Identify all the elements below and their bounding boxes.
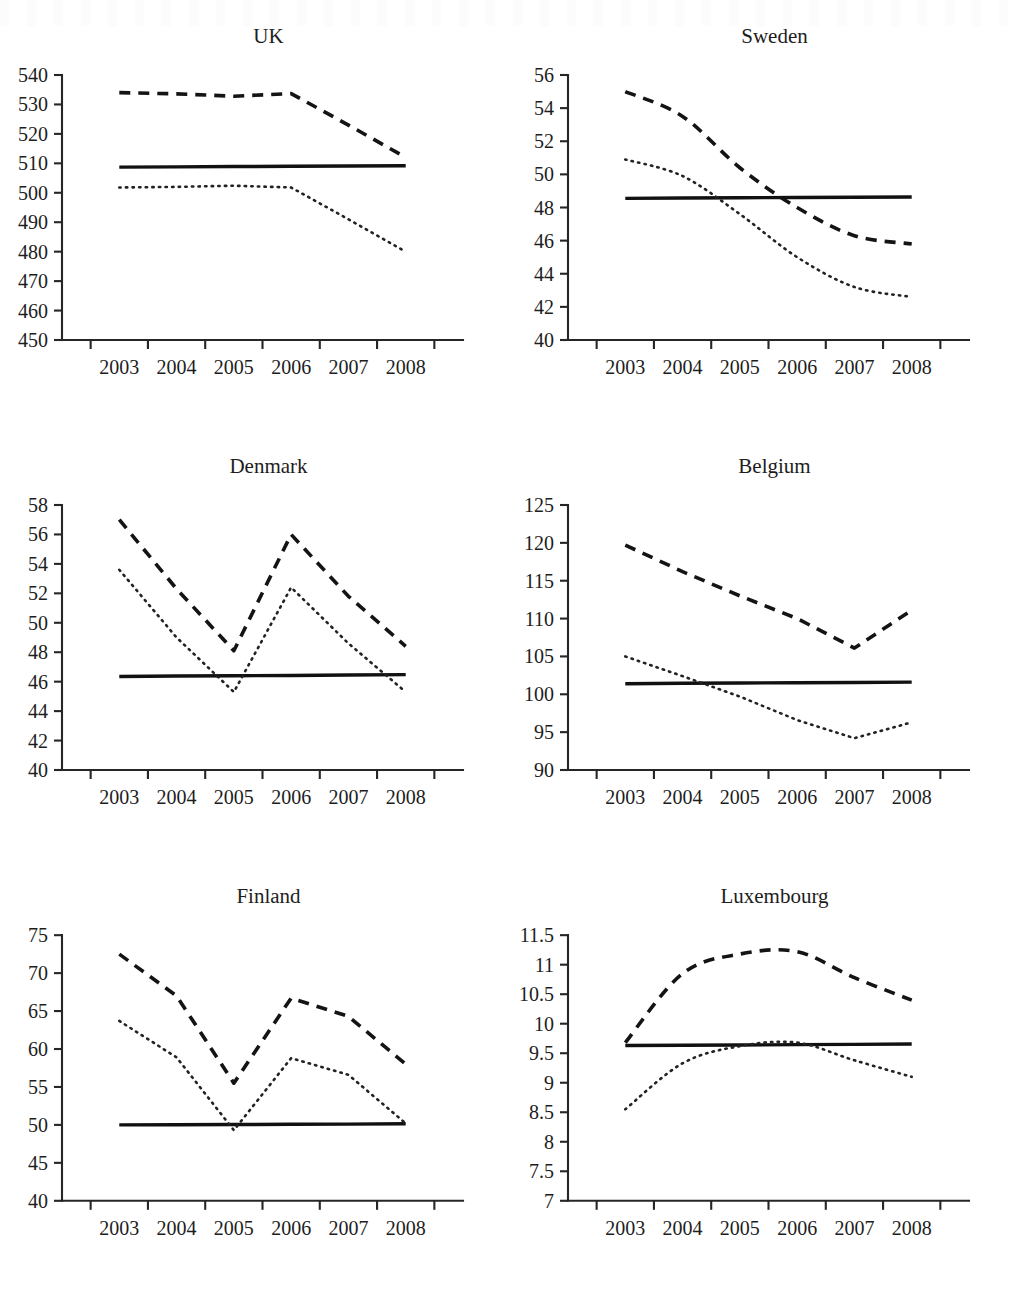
x-tick-label: 2005	[720, 356, 760, 378]
plot-area-sweden: Sweden4042444648505254562003200420052006…	[506, 0, 1012, 430]
y-tick-label: 48	[28, 641, 48, 663]
y-tick-label: 100	[524, 683, 554, 705]
y-tick-label: 10	[534, 1013, 554, 1035]
y-tick-label: 58	[28, 494, 48, 516]
y-tick-label: 50	[28, 612, 48, 634]
y-tick-label: 9.5	[529, 1042, 554, 1064]
y-tick-label: 50	[28, 1114, 48, 1136]
chart-panel-denmark: Denmark404244464850525456582003200420052…	[0, 430, 506, 860]
y-tick-label: 70	[28, 962, 48, 984]
y-tick-label: 54	[28, 553, 48, 575]
x-tick-label: 2008	[386, 786, 426, 808]
y-tick-label: 52	[28, 582, 48, 604]
series-line-dashed	[119, 93, 405, 158]
y-tick-label: 450	[18, 329, 48, 351]
y-tick-label: 44	[28, 700, 48, 722]
chart-panel-sweden: Sweden4042444648505254562003200420052006…	[506, 0, 1012, 430]
series-line-solid	[625, 1044, 911, 1045]
x-tick-label: 2006	[777, 786, 817, 808]
series-line-dashed	[625, 92, 911, 244]
series-line-solid	[625, 197, 911, 198]
x-tick-label: 2003	[99, 1217, 139, 1239]
x-tick-label: 2007	[328, 1217, 368, 1239]
x-tick-label: 2005	[214, 786, 254, 808]
x-tick-label: 2004	[663, 1217, 703, 1239]
y-tick-label: 45	[28, 1152, 48, 1174]
y-tick-label: 11	[535, 954, 554, 976]
y-tick-label: 110	[525, 608, 554, 630]
y-tick-label: 42	[28, 730, 48, 752]
x-tick-label: 2008	[892, 786, 932, 808]
y-tick-label: 530	[18, 93, 48, 115]
x-tick-label: 2008	[386, 1217, 426, 1239]
x-tick-label: 2003	[605, 1217, 645, 1239]
y-tick-label: 40	[534, 329, 554, 351]
y-tick-label: 9	[544, 1072, 554, 1094]
y-tick-label: 75	[28, 924, 48, 946]
x-tick-label: 2007	[328, 786, 368, 808]
y-tick-label: 500	[18, 182, 48, 204]
x-tick-label: 2008	[386, 356, 426, 378]
x-tick-label: 2005	[214, 356, 254, 378]
y-tick-label: 11.5	[520, 924, 554, 946]
panel-title: Sweden	[741, 24, 808, 48]
series-line-dashed	[119, 954, 405, 1083]
x-tick-label: 2008	[892, 1217, 932, 1239]
x-tick-label: 2004	[157, 1217, 197, 1239]
x-tick-label: 2005	[720, 786, 760, 808]
x-tick-label: 2006	[271, 356, 311, 378]
x-tick-label: 2006	[777, 356, 817, 378]
plot-area-denmark: Denmark404244464850525456582003200420052…	[0, 430, 506, 860]
y-tick-label: 40	[28, 759, 48, 781]
y-tick-label: 540	[18, 64, 48, 86]
x-tick-label: 2007	[834, 356, 874, 378]
series-line-dashed	[625, 950, 911, 1043]
y-tick-label: 95	[534, 721, 554, 743]
y-tick-label: 7	[544, 1190, 554, 1212]
x-tick-label: 2005	[720, 1217, 760, 1239]
y-tick-label: 105	[524, 645, 554, 667]
x-tick-label: 2006	[271, 786, 311, 808]
series-line-dotted	[119, 1021, 405, 1130]
y-tick-label: 115	[525, 570, 554, 592]
x-tick-label: 2004	[663, 786, 703, 808]
series-line-solid	[625, 682, 911, 684]
x-tick-label: 2003	[605, 356, 645, 378]
x-tick-label: 2004	[157, 356, 197, 378]
chart-panel-uk: UK45046047048049050051052053054020032004…	[0, 0, 506, 430]
x-tick-label: 2003	[99, 786, 139, 808]
chart-panel-finland: Finland404550556065707520032004200520062…	[0, 860, 506, 1291]
series-line-solid	[119, 166, 405, 167]
x-tick-label: 2007	[834, 786, 874, 808]
x-tick-label: 2003	[99, 356, 139, 378]
y-tick-label: 44	[534, 263, 554, 285]
y-tick-label: 460	[18, 300, 48, 322]
y-tick-label: 120	[524, 532, 554, 554]
series-line-dotted	[625, 1042, 911, 1110]
panel-title: Denmark	[229, 454, 308, 478]
x-tick-label: 2007	[328, 356, 368, 378]
y-tick-label: 520	[18, 123, 48, 145]
y-tick-label: 60	[28, 1038, 48, 1060]
y-tick-label: 46	[534, 230, 554, 252]
y-tick-label: 125	[524, 494, 554, 516]
plot-area-uk: UK45046047048049050051052053054020032004…	[0, 0, 506, 430]
series-line-solid	[119, 675, 405, 677]
y-tick-label: 48	[534, 197, 554, 219]
x-tick-label: 2006	[271, 1217, 311, 1239]
series-line-dotted	[119, 186, 405, 252]
x-tick-label: 2008	[892, 356, 932, 378]
panel-title: Belgium	[738, 454, 810, 478]
chart-panel-grid: UK45046047048049050051052053054020032004…	[0, 0, 1012, 1291]
chart-panel-belgium: Belgium909510010511011512012520032004200…	[506, 430, 1012, 860]
y-tick-label: 54	[534, 97, 554, 119]
x-tick-label: 2003	[605, 786, 645, 808]
y-tick-label: 52	[534, 130, 554, 152]
y-tick-label: 56	[28, 523, 48, 545]
y-tick-label: 8.5	[529, 1101, 554, 1123]
y-tick-label: 40	[28, 1190, 48, 1212]
y-tick-label: 510	[18, 152, 48, 174]
y-tick-label: 55	[28, 1076, 48, 1098]
panel-title: Luxembourg	[720, 884, 829, 908]
y-tick-label: 65	[28, 1000, 48, 1022]
